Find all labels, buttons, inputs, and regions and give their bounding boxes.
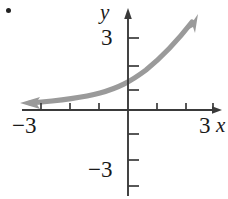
x-tick-label-negative-3: −3	[12, 114, 36, 137]
x-axis-ticks	[41, 103, 213, 110]
x-axis-label: x	[216, 115, 225, 136]
y-axis-arrowhead	[124, 8, 132, 19]
y-tick-label-positive-3: 3	[101, 26, 113, 49]
y-axis-label: y	[100, 2, 109, 23]
y-axis-ticks	[128, 38, 139, 186]
exponential-graph-figure: y x 3 −3 −3 3	[0, 0, 228, 199]
plot-canvas	[0, 0, 228, 199]
y-tick-label-negative-3: −3	[88, 158, 112, 181]
x-tick-label-positive-3: 3	[199, 114, 211, 137]
